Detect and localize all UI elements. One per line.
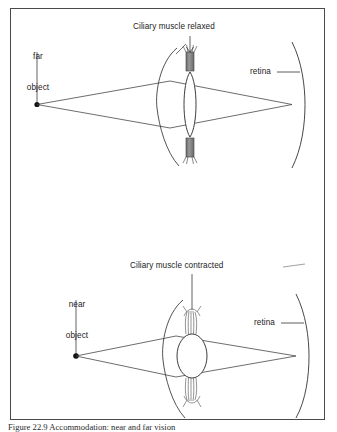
ciliary-muscle-lower-far (186, 138, 194, 157)
retina-arc-far (292, 42, 305, 168)
zonule-fibers-lower-far (183, 157, 197, 164)
eyeball-outline-far (157, 48, 179, 166)
ciliary-label-dash-near (283, 264, 305, 267)
ciliary-muscle-upper-far (186, 52, 194, 71)
ciliary-muscle-upper-near (184, 309, 200, 334)
panel-far-vision (34, 36, 305, 168)
figure-caption: Figure 22.9 Accommodation: near and far … (8, 422, 337, 432)
lens-far (184, 72, 196, 137)
zonule-fibers-lower-near (183, 400, 201, 407)
near-object-label: near object (57, 280, 97, 362)
far-object-label-line2: object (18, 83, 58, 93)
lens-near (177, 334, 207, 378)
panel-near-vision (73, 264, 309, 418)
ciliary-muscle-contracted-label: Ciliary muscle contracted (130, 261, 223, 271)
light-rays-far (37, 81, 292, 128)
near-object-label-line2: object (57, 331, 97, 341)
far-object-label-line1: far (18, 52, 58, 62)
ciliary-muscle-relaxed-label: Ciliary muscle relaxed (133, 22, 215, 32)
retina-label-near: retina (254, 318, 275, 328)
ciliary-muscle-lower-near (184, 378, 200, 403)
retina-arc-near (296, 294, 309, 418)
near-object-label-line1: near (57, 300, 97, 310)
retina-label-far: retina (250, 67, 271, 77)
far-object-label: far object (18, 32, 58, 114)
